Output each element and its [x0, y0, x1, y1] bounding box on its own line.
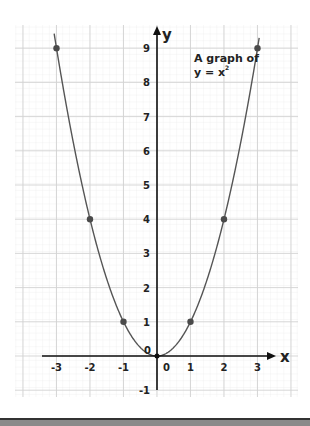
- data-point: [87, 216, 93, 222]
- y-axis-label: y: [162, 26, 172, 44]
- data-point: [120, 319, 126, 325]
- y-tick-label: 7: [143, 112, 150, 123]
- y-tick-label: 6: [143, 146, 150, 157]
- y-tick-label: -1: [139, 385, 150, 396]
- x-tick-label: 1: [187, 362, 194, 373]
- origin-label-left: 0: [144, 345, 151, 356]
- y-tick-label: 4: [143, 214, 150, 225]
- annotation-line-2: y = x: [194, 66, 225, 79]
- data-point: [53, 45, 59, 51]
- data-point: [254, 45, 260, 51]
- x-tick-label: -3: [51, 362, 62, 373]
- data-point: [221, 216, 227, 222]
- y-tick-label: 8: [143, 77, 150, 88]
- annotation-exponent: 2: [225, 64, 229, 71]
- y-tick-label: 5: [143, 180, 150, 191]
- y-tick-label: 1: [143, 317, 150, 328]
- y-tick-label: 9: [143, 43, 150, 54]
- x-tick-label: 3: [254, 362, 261, 373]
- origin-label-below: 0: [163, 362, 170, 373]
- bottom-bar: [0, 418, 310, 426]
- data-point: [187, 319, 193, 325]
- x-tick-label: -1: [118, 362, 129, 373]
- y-tick-label: 3: [143, 248, 150, 259]
- y-tick-label: 2: [143, 283, 150, 294]
- x-tick-label: 2: [221, 362, 228, 373]
- x-tick-label: -2: [84, 362, 95, 373]
- x-axis-label: x: [280, 348, 290, 366]
